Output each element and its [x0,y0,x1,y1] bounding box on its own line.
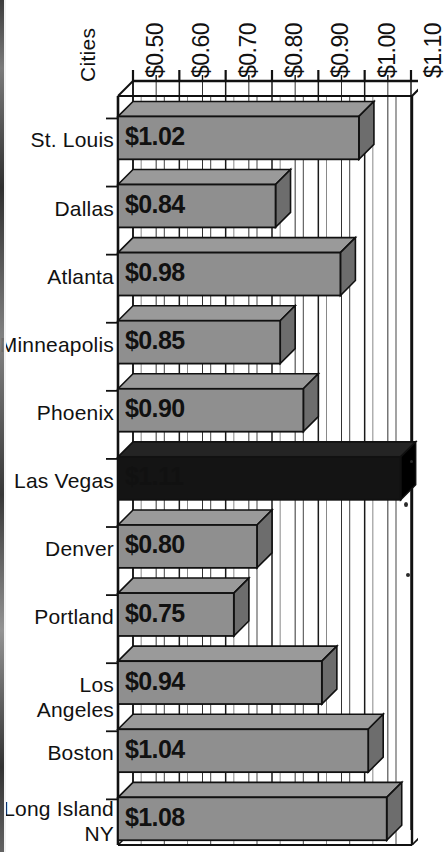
bar-value-label: $0.90 [125,394,185,423]
bar-value-label: $1.02 [125,122,185,151]
bar-value-label: $0.80 [125,530,185,559]
bar-value-label: $0.85 [125,326,185,355]
scan-speck [406,573,410,577]
scan-speck [410,460,413,463]
bar-value-label: $0.84 [125,190,185,219]
x-axis-tick-label: $1.10 [420,23,447,78]
bar-value-label: $1.11 [125,462,183,491]
scan-edge-artifact [0,0,4,852]
bar-value-label: $1.04 [125,735,185,764]
bar-value-label: $0.98 [125,258,185,287]
bar-value-label: $1.08 [125,803,185,832]
bar-value-label: $0.75 [125,599,185,628]
scan-speck [404,502,408,507]
bar-value-label: $0.94 [125,667,185,696]
scan-edge-highlight [4,0,6,852]
